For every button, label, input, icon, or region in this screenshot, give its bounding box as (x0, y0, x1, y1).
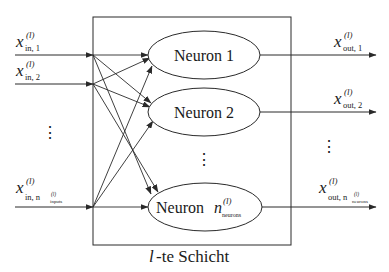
input-1-sup: (l) (26, 30, 35, 40)
input-1-sub: in, 1 (25, 43, 40, 53)
input-2-sub: in, 2 (25, 72, 40, 82)
output-arrows (260, 55, 376, 207)
connection-1-n (93, 55, 151, 194)
output-n-subsub: neurons (352, 199, 368, 204)
input-label-1: x (l) in, 1 (15, 30, 40, 53)
input-ellipsis: ⋮ (42, 124, 58, 141)
input-label-n: x (l) in, n (l) inputs (15, 176, 62, 204)
input-n-symbol: x (15, 178, 24, 197)
output-1-sup: (l) (344, 30, 353, 40)
output-1-symbol: x (333, 32, 342, 51)
output-label-n: x (l) out, n (l) neurons (318, 176, 368, 204)
neuron-n-var-sub: neurons (222, 212, 242, 218)
output-n-sub: out, n (328, 192, 348, 202)
output-label-1: x (l) out, 1 (333, 30, 362, 53)
output-n-symbol: x (318, 178, 327, 197)
output-label-2: x (l) out, 2 (333, 87, 362, 110)
neuron-2-label: Neuron 2 (174, 104, 234, 121)
layer-caption-rest: -te Schicht (156, 247, 229, 266)
neuron-1: Neuron 1 (148, 31, 260, 79)
input-2-sup: (l) (26, 59, 35, 69)
neural-layer-diagram: Neuron 1 Neuron 2 ⋮ Neuron n (l) neurons… (0, 0, 389, 272)
input-n-subsup: (l) (51, 191, 56, 198)
input-n-sub: in, n (25, 192, 41, 202)
output-1-sub: out, 1 (343, 43, 362, 53)
layer-caption-italic: l (149, 247, 154, 266)
neuron-2: Neuron 2 (148, 88, 260, 136)
input-n-subsub: inputs (50, 199, 62, 204)
layer-caption: l -te Schicht (149, 247, 229, 266)
output-2-sub: out, 2 (343, 100, 362, 110)
neuron-n: Neuron n (l) neurons (148, 183, 262, 231)
neuron-n-var-sup: (l) (223, 196, 232, 206)
neuron-1-label: Neuron 1 (174, 47, 234, 64)
output-2-symbol: x (333, 89, 342, 108)
neuron-n-label: Neuron (156, 199, 204, 216)
output-n-subsup: (l) (354, 191, 359, 198)
connections (93, 55, 158, 207)
input-1-symbol: x (15, 32, 24, 51)
input-label-2: x (l) in, 2 (15, 59, 40, 82)
neuron-ellipsis: ⋮ (196, 151, 212, 168)
input-2-symbol: x (15, 61, 24, 80)
output-2-sup: (l) (344, 87, 353, 97)
output-ellipsis: ⋮ (321, 138, 337, 155)
neuron-n-var: n (214, 199, 222, 216)
output-n-sup: (l) (329, 176, 338, 186)
input-n-sup: (l) (26, 176, 35, 186)
